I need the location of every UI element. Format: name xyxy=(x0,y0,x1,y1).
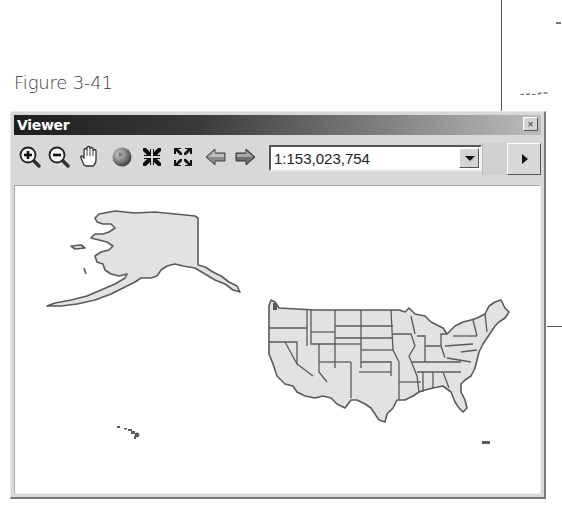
toolbar-overflow-button[interactable] xyxy=(507,143,541,175)
alaska-shape xyxy=(47,211,240,306)
scale-value: 1:153,023,754 xyxy=(274,150,370,167)
arrow-left-icon[interactable] xyxy=(204,145,228,169)
toolbar-spacer xyxy=(482,143,507,175)
us-map xyxy=(15,186,541,494)
background-map-fragment xyxy=(520,92,550,95)
close-button[interactable]: × xyxy=(523,117,538,131)
fixed-zoom-in-icon[interactable] xyxy=(140,145,164,169)
scale-combobox[interactable]: 1:153,023,754 xyxy=(269,145,482,171)
scale-dropdown-button[interactable] xyxy=(459,148,479,168)
hawaii-shape xyxy=(117,426,139,439)
arrow-right-icon[interactable] xyxy=(233,145,257,169)
zoom-in-icon[interactable] xyxy=(18,145,42,169)
title-bar[interactable]: Viewer × xyxy=(14,115,541,135)
window-title: Viewer xyxy=(17,117,69,133)
background-map-fragment xyxy=(556,22,561,24)
figure-caption: Figure 3-41 xyxy=(14,72,113,93)
hand-icon[interactable] xyxy=(77,145,101,169)
toolbar: 1:153,023,754 xyxy=(14,138,541,182)
background-leader-line xyxy=(501,0,502,112)
puerto-rico-shape xyxy=(482,441,490,444)
contiguous-us-shape xyxy=(269,300,509,422)
background-leader-line-horizontal xyxy=(547,326,562,327)
zoom-out-icon[interactable] xyxy=(47,145,71,169)
fixed-zoom-out-icon[interactable] xyxy=(171,145,195,169)
globe-icon[interactable] xyxy=(110,145,134,169)
viewer-window: Viewer × xyxy=(10,111,546,499)
map-canvas[interactable] xyxy=(14,185,541,494)
